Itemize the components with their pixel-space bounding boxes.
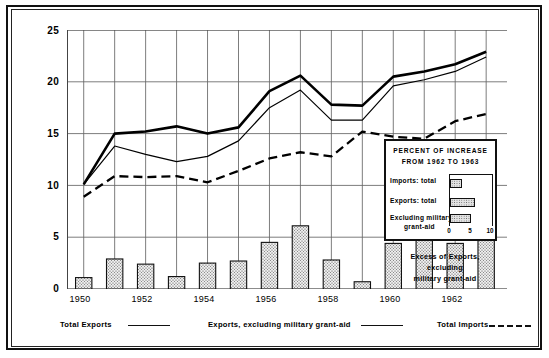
x-tick-1954: 1954	[184, 294, 224, 304]
inset-scale-tick-0: 0	[443, 227, 455, 234]
bar-series-caption: Excess of Exports, excluding military gr…	[386, 251, 504, 284]
bar-caption-line2: excluding	[386, 262, 504, 273]
x-tick-1952: 1952	[122, 294, 162, 304]
key-label-exports-excl-military: Exports, excluding military grant-aid	[208, 320, 351, 329]
inset-label-imports-total: Imports: total	[390, 177, 436, 185]
x-tick-1960: 1960	[370, 294, 410, 304]
key-label-total-exports: Total Exports	[60, 320, 112, 329]
inset-mini-bar-chart	[449, 174, 493, 226]
key-line-exports-excl-military	[361, 325, 403, 326]
chart-figure: BILLIONS OF DOLLARS 25 20 15 10 5 0 1950…	[0, 0, 549, 358]
inset-title-line1: PERCENT OF INCREASE	[386, 146, 495, 156]
inset-body: Imports: total Exports: total Excluding …	[386, 170, 495, 236]
inset-label-exports-total: Exports: total	[390, 197, 437, 205]
percent-increase-inset: PERCENT OF INCREASE FROM 1962 TO 1963 Im…	[384, 139, 497, 241]
inset-title-line2: FROM 1962 TO 1963	[386, 157, 495, 167]
y-tick-0: 0	[33, 283, 59, 294]
y-tick-15: 15	[33, 128, 59, 139]
inset-label-excluding-military-line1: Excluding military	[390, 214, 452, 222]
inset-mini-bar-exports	[450, 198, 475, 207]
x-tick-1950: 1950	[60, 294, 100, 304]
x-tick-1962: 1962	[432, 294, 472, 304]
inset-mini-bar-excluding	[450, 214, 471, 223]
y-tick-20: 20	[33, 76, 59, 87]
key-label-total-imports: Total Imports	[437, 320, 488, 329]
x-tick-1958: 1958	[308, 294, 348, 304]
x-tick-1956: 1956	[246, 294, 286, 304]
bar-caption-line1: Excess of Exports,	[386, 251, 504, 262]
key-line-total-exports	[128, 325, 170, 326]
inset-scale-tick-5: 5	[464, 227, 476, 234]
bar-caption-line3: military grant-aid	[386, 273, 504, 284]
inset-scale-tick-10: 10	[484, 227, 496, 234]
inset-mini-bar-imports	[450, 179, 462, 188]
y-tick-10: 10	[33, 180, 59, 191]
inset-label-excluding-military-line2: grant-aid	[404, 223, 435, 231]
key-line-total-imports	[489, 325, 531, 327]
y-tick-25: 25	[33, 25, 59, 36]
y-tick-5: 5	[33, 231, 59, 242]
